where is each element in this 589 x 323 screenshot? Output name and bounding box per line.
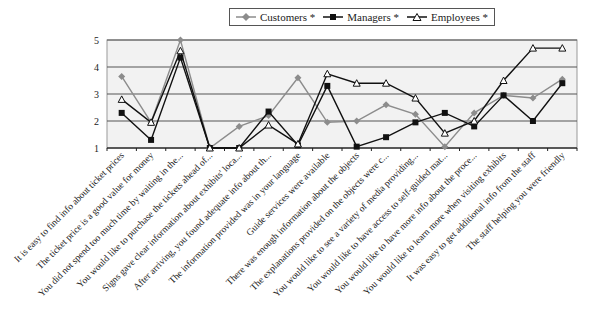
y-tick-label: 5 [94, 35, 99, 46]
data-point [119, 110, 125, 116]
data-point [354, 144, 360, 150]
x-tick-label: After arriving, you found adequate info … [131, 150, 273, 292]
y-tick-label: 4 [94, 62, 99, 73]
data-point [530, 118, 536, 124]
y-axis-ticks: 12345 [94, 35, 99, 154]
y-tick-label: 1 [94, 143, 99, 154]
data-point [442, 110, 448, 116]
data-point [324, 83, 330, 89]
data-point [383, 134, 389, 140]
data-point [266, 109, 272, 115]
x-axis-labels: It is easy to find info about ticket pri… [12, 150, 567, 299]
y-tick-label: 2 [94, 116, 99, 127]
data-point [559, 80, 565, 86]
x-tick-label: Signs gave clear information about exhib… [100, 150, 243, 293]
line-chart: 12345 It is easy to find info about tick… [0, 0, 589, 323]
data-point [501, 92, 507, 98]
data-point [412, 119, 418, 125]
x-tick-label: The explanations provided on the objects… [248, 150, 390, 292]
x-tick-label: You would like to purchase the tickets a… [75, 150, 214, 289]
y-tick-label: 3 [94, 89, 99, 100]
data-point [148, 137, 154, 143]
